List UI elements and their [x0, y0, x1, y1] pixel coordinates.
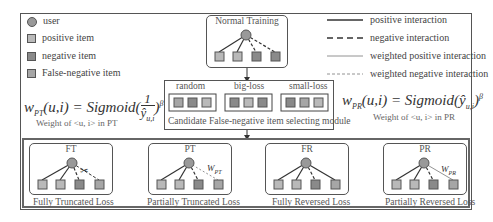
- normal-training-graph: [206, 15, 288, 68]
- negative-square-icon: [27, 52, 36, 61]
- weight-sub: PT: [215, 169, 222, 175]
- weight-label-pt: WPT: [207, 163, 222, 175]
- user-circle-icon: [27, 17, 37, 27]
- formula-pt-args: (u,i) = Sigmoid(: [43, 99, 140, 115]
- formula-pr-lhs-sub: PR: [352, 102, 362, 111]
- formula-pr-caption: Weight of <u, i> in PR: [373, 112, 455, 122]
- legend-label: positive item: [42, 32, 94, 43]
- candidate-module-caption: Candidate False-negative item selecting …: [168, 116, 351, 126]
- legend-negative-item: negative item: [27, 50, 96, 61]
- weight-symbol: W: [207, 163, 215, 173]
- formula-pr-exp: β: [479, 92, 483, 101]
- fr-graph: [265, 143, 349, 195]
- method-name-fr: Fully Reversed Loss: [272, 197, 350, 207]
- formula-pt-lhs-sub: PT: [34, 109, 43, 118]
- weight-label-pr: WPR: [441, 164, 456, 176]
- legend-label: False-negative item: [42, 67, 121, 78]
- legend-weighted-positive-interaction: weighted positive interaction: [370, 50, 486, 61]
- y-hat-sub: u,i: [146, 114, 154, 123]
- weight-sub: PR: [449, 170, 456, 176]
- formula-pt-exp: β: [160, 99, 164, 108]
- false-negative-square-icon: [27, 69, 36, 78]
- formula-pt-lhs: w: [24, 99, 34, 115]
- positive-square-icon: [27, 34, 36, 43]
- formula-pr-inner-sub: u,i: [466, 102, 474, 111]
- legend-weighted-negative-interaction: weighted negative interaction: [370, 68, 488, 79]
- legend-negative-interaction: negative interaction: [370, 32, 449, 43]
- legend-positive-item: positive item: [27, 32, 94, 43]
- legend-user: user: [27, 15, 60, 27]
- legend-positive-interaction: positive interaction: [370, 14, 447, 25]
- method-name-ft: Fully Truncated Loss: [33, 197, 114, 207]
- formula-pt-fraction: 1ŷu,i: [141, 92, 155, 125]
- ft-graph: ✂: [29, 143, 113, 195]
- formula-pr-inner: ŷ: [459, 92, 466, 108]
- legend-label: negative item: [42, 50, 96, 61]
- weight-symbol: W: [441, 164, 449, 174]
- fraction-denominator: ŷu,i: [141, 106, 155, 125]
- formula-pr-args: (u,i) = Sigmoid(: [362, 92, 459, 108]
- edge-legend-lines-icon: [325, 14, 365, 84]
- method-name-pt: Partially Truncated Loss: [147, 197, 240, 207]
- legend-label: user: [43, 15, 60, 26]
- legend-false-negative-item: False-negative item: [27, 67, 121, 78]
- svg-text:✂: ✂: [80, 165, 88, 176]
- formula-pt-caption: Weight of <u, i> in PT: [36, 118, 117, 128]
- formula-pr: wPR(u,i) = Sigmoid(ŷu,i)β: [342, 92, 483, 111]
- fraction-numerator: 1: [141, 92, 155, 106]
- method-name-pr: Partially Reversed Loss: [385, 197, 475, 207]
- formula-pr-lhs: w: [342, 92, 352, 108]
